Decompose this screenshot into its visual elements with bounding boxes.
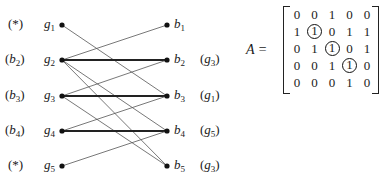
label-b2: b2 (174, 52, 185, 66)
matrix-cell-0-3: 0 (342, 7, 358, 23)
matrix-cell-3-4: 0 (359, 58, 375, 74)
tag-g1: (*) (8, 17, 23, 31)
label-g2: g2 (44, 52, 55, 66)
matrix-cell-0-1: 0 (307, 7, 323, 23)
edge-g2-b1 (62, 25, 167, 60)
tag-b5: (g3) (200, 158, 220, 172)
node-g5 (59, 163, 64, 168)
matrix-label: A = (246, 43, 267, 57)
label-g3: g3 (44, 88, 55, 102)
matrix-cell-4-4: 0 (359, 75, 375, 91)
edge-g3-b2 (62, 60, 167, 96)
tag-b4: (g5) (200, 123, 220, 137)
label-b3: b3 (174, 88, 185, 102)
matrix-cell-3-3: 1 (342, 58, 357, 73)
tag-g2: (b2) (5, 52, 25, 66)
matrix-cell-0-4: 0 (359, 7, 375, 23)
matrix-cell-1-3: 1 (342, 24, 358, 40)
matrix-cell-1-0: 1 (289, 24, 305, 40)
node-g2 (59, 57, 64, 62)
edge-g5-b4 (62, 131, 167, 166)
tag-g5: (*) (8, 158, 23, 172)
tag-g3: (b3) (5, 88, 25, 102)
node-b5 (164, 163, 169, 168)
node-g4 (59, 128, 64, 133)
matrix-cell-2-1: 1 (307, 41, 323, 57)
matrix-cell-4-1: 0 (307, 75, 323, 91)
label-g4: g4 (44, 123, 55, 137)
tag-b3: (g1) (200, 88, 220, 102)
matrix-cell-2-0: 0 (289, 41, 305, 57)
matrix-cell-1-4: 1 (359, 24, 375, 40)
node-b1 (164, 22, 169, 27)
matrix-cell-4-2: 0 (324, 75, 340, 91)
matrix-cell-2-4: 1 (359, 41, 375, 57)
matrix-cell-0-2: 1 (324, 7, 340, 23)
matrix-cell-3-2: 1 (324, 58, 340, 74)
label-b4: b4 (174, 123, 185, 137)
label-b1: b1 (174, 17, 185, 31)
node-b2 (164, 57, 169, 62)
edge-g4-b3 (62, 96, 167, 131)
matrix-cell-1-1: 1 (307, 24, 322, 39)
label-g5: g5 (44, 158, 55, 172)
label-g1: g1 (44, 17, 55, 31)
node-b4 (164, 128, 169, 133)
matrix-cell-4-0: 0 (289, 75, 305, 91)
node-g1 (59, 22, 64, 27)
edge-g2-b5 (62, 60, 167, 166)
matrix-cell-1-2: 0 (324, 24, 340, 40)
matrix-cell-0-0: 0 (289, 7, 305, 23)
matrix-cell-2-3: 0 (342, 41, 358, 57)
node-g3 (59, 93, 64, 98)
label-b5: b5 (174, 158, 185, 172)
matrix-cell-4-3: 1 (342, 75, 358, 91)
matrix-cell-2-2: 1 (325, 41, 340, 56)
node-b3 (164, 93, 169, 98)
tag-b2: (g3) (200, 52, 220, 66)
incidence-matrix: 0010011011011010011000010 (283, 6, 379, 94)
tag-g4: (b4) (5, 123, 25, 137)
matrix-cell-3-1: 0 (307, 58, 323, 74)
matrix-cell-3-0: 0 (289, 58, 305, 74)
